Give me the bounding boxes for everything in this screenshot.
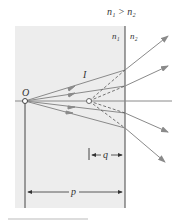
image-label: I <box>82 69 87 80</box>
medium-2-label: n₂ <box>130 31 138 41</box>
object-point <box>23 99 28 104</box>
caption-bar <box>8 218 88 220</box>
object-distance-label: p <box>70 186 76 197</box>
medium-1-label: n₁ <box>112 31 120 41</box>
object-label: O <box>22 87 29 98</box>
image-point <box>87 99 92 104</box>
refractive-index-condition: n₁ > n₂ <box>107 6 136 17</box>
medium-1-region <box>15 26 125 208</box>
refraction-diagram: n₁ > n₂ n₁ n₂ O I q p <box>0 0 183 223</box>
image-distance-label: q <box>103 149 108 160</box>
